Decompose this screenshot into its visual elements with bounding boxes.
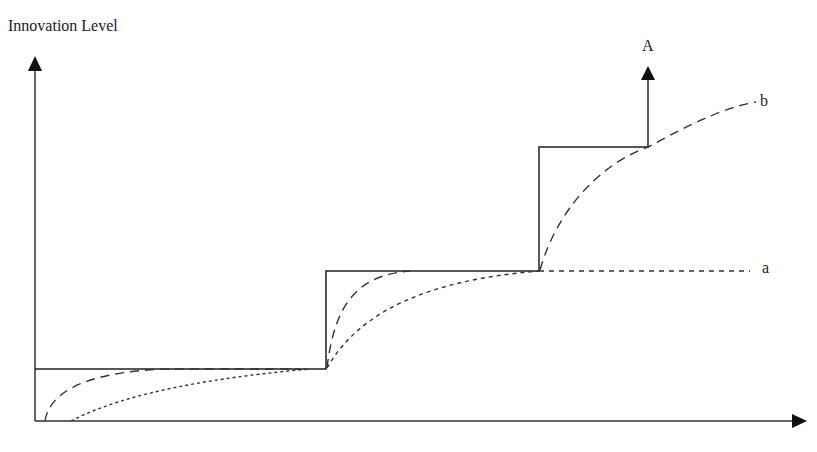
curve-a-segment-2	[327, 271, 539, 368]
curve-a-segment-1	[71, 369, 310, 421]
y-axis-arrowhead	[28, 56, 42, 71]
x-axis-arrowhead	[792, 414, 807, 428]
staircase-line	[35, 78, 648, 369]
innovation-diagram	[0, 0, 817, 452]
step-arrowhead	[641, 66, 655, 80]
curve-b-segment-2	[327, 271, 410, 368]
curve-b-segment-1	[45, 369, 300, 421]
